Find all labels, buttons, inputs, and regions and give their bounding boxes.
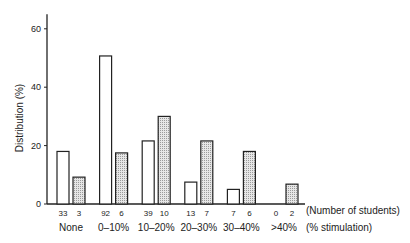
bar-group-1 <box>57 151 69 204</box>
x-axis-label: (% stimulation) <box>306 222 372 233</box>
category-label: 0–10% <box>98 222 129 233</box>
y-tick-label: 0 <box>36 199 41 209</box>
bar-group-1 <box>100 56 112 204</box>
bar-group-2 <box>243 151 255 204</box>
category-label: None <box>59 222 83 233</box>
bar-group-2 <box>116 153 128 204</box>
bar-group-2 <box>201 141 213 204</box>
category-label: 20–30% <box>180 222 217 233</box>
category-label: >40% <box>271 222 297 233</box>
labels: 333None9260–10%391010–20%13720–30%7630–4… <box>59 209 297 233</box>
count-row-label: (Number of students) <box>306 205 400 216</box>
y-tick-label: 40 <box>31 82 41 92</box>
y-axis-label: Distribution (%) <box>14 84 25 152</box>
bar-group-1 <box>142 141 154 204</box>
bar-group-2 <box>73 177 85 204</box>
count-label: 7 <box>231 209 236 218</box>
count-label: 39 <box>144 209 153 218</box>
count-label: 7 <box>205 209 210 218</box>
count-label: 13 <box>186 209 195 218</box>
category-label: 10–20% <box>138 222 175 233</box>
bars <box>57 56 298 204</box>
bar-group-1 <box>185 182 197 204</box>
bar-group-2 <box>286 184 298 204</box>
bar-group-2 <box>158 116 170 204</box>
count-label: 92 <box>101 209 110 218</box>
count-label: 10 <box>160 209 169 218</box>
category-label: 30–40% <box>223 222 260 233</box>
count-label: 0 <box>274 209 279 218</box>
count-label: 3 <box>77 209 82 218</box>
bar-chart: 0204060 333None9260–10%391010–20%13720–3… <box>0 0 410 243</box>
count-label: 33 <box>59 209 68 218</box>
count-label: 6 <box>247 209 252 218</box>
count-label: 2 <box>290 209 295 218</box>
count-label: 6 <box>119 209 124 218</box>
bar-group-1 <box>227 189 239 204</box>
y-tick-label: 60 <box>31 24 41 34</box>
y-tick-label: 20 <box>31 141 41 151</box>
